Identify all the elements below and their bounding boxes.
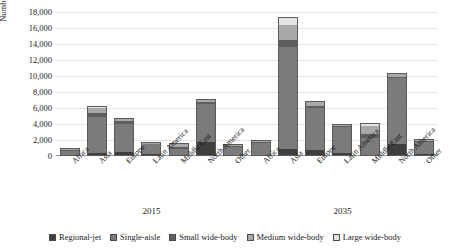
aircraft-fleet-stacked-bar-chart: Number of aircraft 18,00016,00014,00012,… [0,0,450,252]
category-label-group: AfricaAsiaEuropeLatin AmericaMiddle East… [247,158,438,204]
chart-legend: Regional-jetSingle-aisleSmall wide-bodyM… [0,232,450,242]
group-year-label: 2015 [56,206,247,220]
legend-item[interactable]: Regional-jet [49,232,101,242]
category-axis-labels: AfricaAsiaEuropeLatin AmericaMiddle East… [56,158,438,204]
legend-swatch-icon [333,234,340,241]
bar-segment[interactable] [278,25,298,40]
y-axis-tick-label: 12,000 [6,55,52,65]
legend-label: Single-aisle [120,232,160,242]
bar-group-2035 [247,12,438,156]
category-label-group: AfricaAsiaEuropeLatin AmericaMiddle East… [56,158,247,204]
stacked-bar[interactable] [87,12,107,156]
bar-segment[interactable] [87,117,107,153]
y-axis-tick-label: 4,000 [6,119,52,129]
category-label-slot: Africa [60,158,80,204]
legend-label: Small wide-body [179,232,237,242]
y-axis-tick-label: 18,000 [6,7,52,17]
stacked-bar[interactable] [60,12,80,156]
y-axis-tick-label: 10,000 [6,71,52,81]
legend-label: Medium wide-body [257,232,324,242]
y-axis-tick-label: 6,000 [6,103,52,113]
y-axis-tick-label: 0 [6,151,52,161]
group-year-label: 2035 [247,206,438,220]
category-label-slot: Other [414,158,434,204]
bar-segment[interactable] [278,17,298,25]
legend-item[interactable]: Single-aisle [110,232,160,242]
category-label-slot: Asia [278,158,298,204]
plot-area [56,12,438,156]
legend-label: Large wide-body [343,232,401,242]
category-label-slot: Other [223,158,243,204]
legend-item[interactable]: Large wide-body [333,232,401,242]
y-axis-tick-label: 2,000 [6,135,52,145]
category-label-slot: Europe [114,158,134,204]
bar-group-2015 [56,12,247,156]
category-label-slot: Europe [305,158,325,204]
y-axis-tick-label: 8,000 [6,87,52,97]
legend-swatch-icon [110,234,117,241]
group-year-labels: 20152035 [56,206,438,220]
legend-swatch-icon [49,234,56,241]
category-label-slot: Asia [87,158,107,204]
stacked-bar[interactable] [305,12,325,156]
bar-segment[interactable] [278,47,298,149]
bar-segment[interactable] [278,40,298,47]
y-axis-tick-label: 16,000 [6,23,52,33]
category-label-slot: Middle East [360,158,380,204]
stacked-bar[interactable] [251,12,271,156]
y-axis-tick-label: 14,000 [6,39,52,49]
legend-swatch-icon [247,234,254,241]
category-label-slot: North America [387,158,407,204]
y-axis-tick-labels: 18,00016,00014,00012,00010,0008,0006,000… [0,12,52,156]
stacked-bar[interactable] [278,12,298,156]
legend-swatch-icon [169,234,176,241]
stacked-bar[interactable] [114,12,134,156]
category-label-slot: North America [196,158,216,204]
category-label-slot: Africa [251,158,271,204]
category-label-slot: Latin America [141,158,161,204]
stacked-bar[interactable] [141,12,161,156]
legend-item[interactable]: Medium wide-body [247,232,324,242]
bar-groups [56,12,438,156]
category-label-slot: Latin America [332,158,352,204]
legend-label: Regional-jet [59,232,101,242]
bar-segment[interactable] [114,124,134,152]
stacked-bar[interactable] [332,12,352,156]
category-label-slot: Middle East [169,158,189,204]
bar-segment[interactable] [305,108,325,150]
legend-item[interactable]: Small wide-body [169,232,237,242]
